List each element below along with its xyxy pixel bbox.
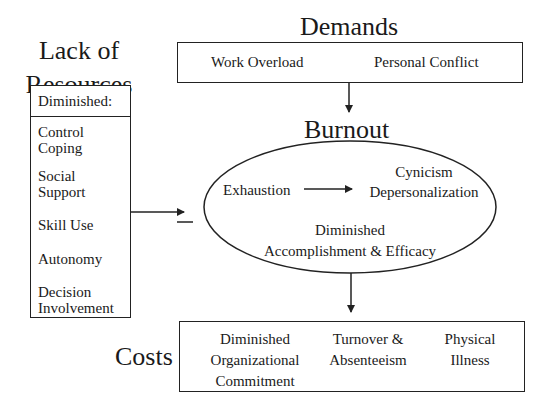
resource-item-social-support: Social Support <box>38 168 86 200</box>
costs-title: Costs <box>115 344 173 370</box>
resource-item-skill-use: Skill Use <box>38 217 93 233</box>
resources-subheader: Diminished: <box>38 93 112 109</box>
resource-item-decision-involvement: Decision Involvement <box>38 284 114 316</box>
burnout-efficacy: Diminished Accomplishment & Efficacy <box>250 220 450 262</box>
demands-box: Work Overload Personal Conflict <box>177 42 523 83</box>
resource-item-control-coping: Control Coping <box>38 124 84 156</box>
demand-item-personal-conflict: Personal Conflict <box>374 54 479 70</box>
burnout-title: Burnout <box>304 117 389 143</box>
resource-item-autonomy: Autonomy <box>38 251 102 267</box>
resources-title-line1: Lack of <box>24 34 134 68</box>
cost-item-org-commitment: Diminished Organizational Commitment <box>200 329 310 392</box>
resources-box: Diminished: <box>30 85 131 118</box>
burnout-cynicism: Cynicism Depersonalization <box>362 162 486 202</box>
resources-list-box: Control Coping Social Support Skill Use … <box>30 116 131 318</box>
demands-title: Demands <box>300 14 398 40</box>
costs-box: Diminished Organizational Commitment Tur… <box>179 321 525 392</box>
burnout-exhaustion: Exhaustion <box>223 182 291 198</box>
cost-item-turnover: Turnover & Absenteeism <box>318 329 418 371</box>
demand-item-work-overload: Work Overload <box>211 54 304 70</box>
cost-item-physical-illness: Physical Illness <box>430 329 510 371</box>
